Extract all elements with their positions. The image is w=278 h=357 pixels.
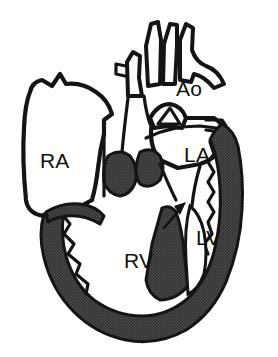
label-left-ventricle: LV <box>196 226 221 249</box>
label-left-atrium: LA <box>184 143 210 166</box>
superior-vena-cava-outline <box>127 52 142 96</box>
heart-diagram-figure: RA LA RV LV Ao <box>0 0 278 357</box>
tricuspid-valve-mass <box>104 152 137 196</box>
label-right-ventricle: RV <box>124 249 153 272</box>
label-right-atrium: RA <box>40 149 70 172</box>
pulmonary-trunk-outline <box>146 22 161 86</box>
heart-diagram-canvas: RA LA RV LV Ao <box>0 0 278 357</box>
label-aorta: Ao <box>176 77 202 100</box>
mitral-valve-mass <box>136 150 163 187</box>
